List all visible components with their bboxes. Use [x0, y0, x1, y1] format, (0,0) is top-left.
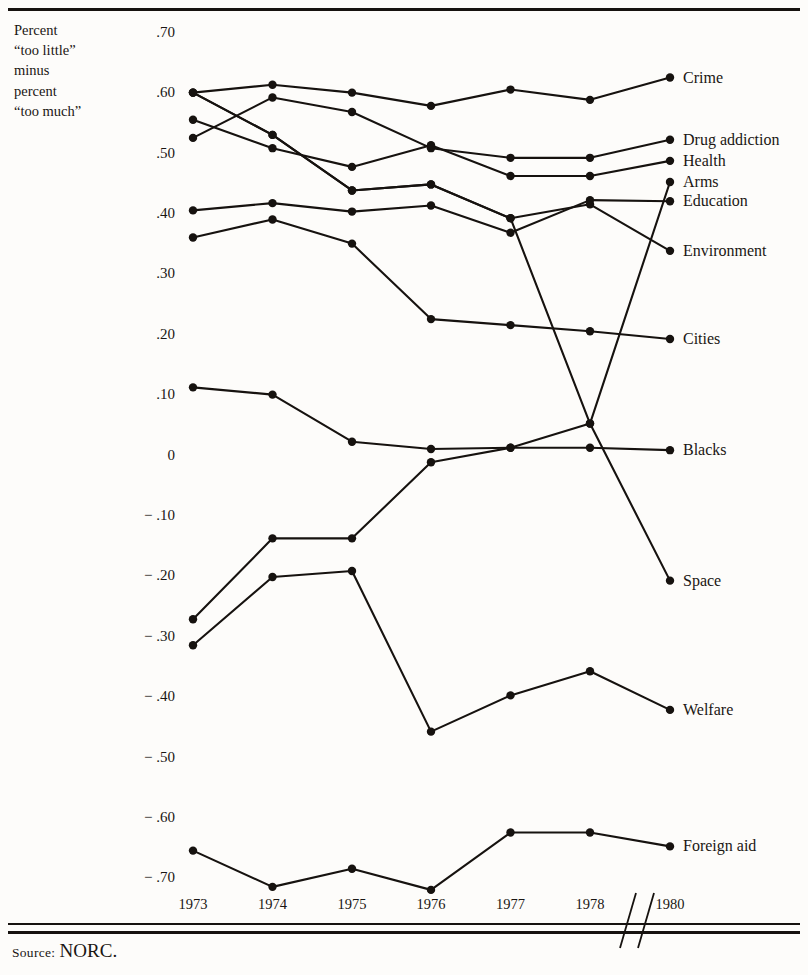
- data-point: [268, 144, 276, 152]
- data-point: [506, 828, 514, 836]
- series-label-welfare: Welfare: [683, 702, 733, 718]
- figure-page: Percent“too little”minuspercent“too much…: [0, 0, 808, 975]
- data-point: [268, 573, 276, 581]
- data-point: [666, 197, 674, 205]
- y-tick-label: .40: [113, 206, 175, 221]
- data-point: [506, 229, 514, 237]
- data-point: [268, 131, 276, 139]
- series-crime: [189, 73, 674, 110]
- y-tick-label: − .60: [113, 810, 175, 825]
- data-point: [506, 85, 514, 93]
- x-tick-label: 1977: [481, 897, 541, 912]
- data-point: [427, 180, 435, 188]
- series-environment: [189, 88, 674, 255]
- x-tick-label: 1973: [163, 897, 223, 912]
- data-point: [189, 233, 197, 241]
- y-tick-label: .30: [113, 266, 175, 281]
- data-point: [506, 321, 514, 329]
- series-welfare: [189, 567, 674, 736]
- data-point: [666, 446, 674, 454]
- y-tick-label: − .70: [113, 870, 175, 885]
- data-point: [348, 438, 356, 446]
- data-point: [666, 178, 674, 186]
- data-point: [348, 865, 356, 873]
- y-tick-label: 0: [113, 448, 175, 463]
- data-point: [268, 883, 276, 891]
- data-point: [348, 163, 356, 171]
- data-point: [506, 444, 514, 452]
- x-tick-label: 1974: [243, 897, 303, 912]
- data-point: [586, 327, 594, 335]
- data-point: [427, 886, 435, 894]
- data-point: [586, 154, 594, 162]
- data-point: [586, 444, 594, 452]
- data-point: [427, 315, 435, 323]
- series-foreign-aid: [189, 828, 674, 894]
- axis-break-slash-0: [620, 893, 636, 948]
- data-point: [666, 576, 674, 584]
- data-point: [427, 445, 435, 453]
- data-point: [268, 534, 276, 542]
- data-point: [666, 157, 674, 165]
- series-arms: [189, 88, 674, 427]
- data-point: [427, 201, 435, 209]
- data-point: [586, 200, 594, 208]
- data-point: [666, 706, 674, 714]
- data-point: [268, 199, 276, 207]
- y-tick-label: .50: [113, 146, 175, 161]
- y-tick-label: − .50: [113, 750, 175, 765]
- data-point: [586, 96, 594, 104]
- y-tick-label: .20: [113, 327, 175, 342]
- series-label-blacks: Blacks: [683, 442, 727, 458]
- series-health: [189, 116, 674, 181]
- series-label-arms: Arms: [683, 174, 719, 190]
- data-point: [506, 691, 514, 699]
- series-label-cities: Cities: [683, 331, 720, 347]
- series-label-health: Health: [683, 153, 726, 169]
- series-label-drug-addiction: Drug addiction: [683, 132, 779, 148]
- series-label-space: Space: [683, 573, 721, 589]
- data-point: [427, 727, 435, 735]
- data-point: [666, 73, 674, 81]
- data-point: [189, 88, 197, 96]
- data-point: [666, 136, 674, 144]
- data-point: [189, 383, 197, 391]
- data-point: [189, 116, 197, 124]
- x-tick-label: 1975: [322, 897, 382, 912]
- series-line: [193, 93, 670, 251]
- data-point: [506, 214, 514, 222]
- source-note: Source: NORC.: [12, 941, 117, 963]
- series-label-foreign-aid: Foreign aid: [683, 838, 756, 854]
- series-line: [193, 833, 670, 890]
- y-tick-label: − .40: [113, 689, 175, 704]
- data-point: [189, 641, 197, 649]
- series-line: [193, 571, 670, 732]
- data-point: [666, 335, 674, 343]
- x-tick-label: 1976: [401, 897, 461, 912]
- series-cities: [189, 215, 674, 343]
- data-point: [268, 215, 276, 223]
- data-point: [189, 206, 197, 214]
- series-education: [189, 196, 674, 237]
- data-point: [268, 390, 276, 398]
- series-label-environment: Environment: [683, 243, 767, 259]
- data-point: [268, 81, 276, 89]
- y-tick-label: .70: [113, 25, 175, 40]
- x-tick-label: 1980: [640, 897, 700, 912]
- data-point: [506, 154, 514, 162]
- data-point: [427, 458, 435, 466]
- data-point: [586, 172, 594, 180]
- source-value: NORC.: [60, 940, 118, 961]
- y-tick-label: .10: [113, 387, 175, 402]
- series-label-crime: Crime: [683, 70, 723, 86]
- data-point: [268, 93, 276, 101]
- data-point: [586, 419, 594, 427]
- data-point: [189, 134, 197, 142]
- data-point: [506, 172, 514, 180]
- data-point: [189, 846, 197, 854]
- data-point: [427, 102, 435, 110]
- y-tick-label: .60: [113, 85, 175, 100]
- y-tick-label: − .30: [113, 629, 175, 644]
- y-tick-label: − .20: [113, 568, 175, 583]
- data-point: [348, 239, 356, 247]
